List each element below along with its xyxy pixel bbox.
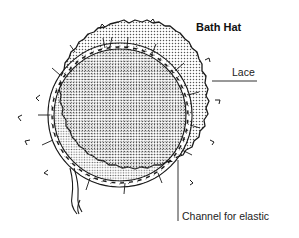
lace-label: Lace (232, 66, 255, 78)
diagram-title: Bath Hat (196, 21, 241, 33)
bath-hat-illustration (0, 0, 299, 238)
bath-hat-diagram: Bath Hat Lace Channel for elastic (0, 0, 299, 238)
channel-label: Channel for elastic (182, 210, 269, 222)
